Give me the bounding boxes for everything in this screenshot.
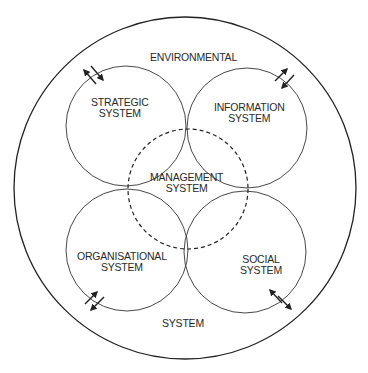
information-system-label: INFORMATION SYSTEM	[214, 102, 285, 124]
organisational-line2: SYSTEM	[77, 262, 167, 273]
management-system-label: MANAGEMENT SYSTEM	[150, 172, 223, 194]
strategic-line2: SYSTEM	[91, 108, 149, 119]
social-line2: SYSTEM	[240, 265, 282, 276]
bidirectional-arrow-icon	[275, 69, 294, 88]
system-label: SYSTEM	[162, 318, 204, 329]
organisational-system-label: ORGANISATIONAL SYSTEM	[77, 251, 167, 273]
information-line2: SYSTEM	[214, 113, 285, 124]
bidirectional-arrow-icon	[84, 66, 103, 84]
environmental-system-diagram: ENVIRONMENTAL SYSTEM STRATEGIC SYSTEM IN…	[0, 0, 368, 373]
social-system-label: SOCIAL SYSTEM	[240, 254, 282, 276]
management-line2: SYSTEM	[150, 183, 223, 194]
environmental-label-text: ENVIRONMENTAL	[150, 52, 237, 63]
bidirectional-arrow-icon	[85, 292, 104, 310]
strategic-system-label: STRATEGIC SYSTEM	[91, 97, 149, 119]
social-system-circle	[184, 191, 306, 313]
information-system-circle	[187, 68, 307, 188]
system-label-text: SYSTEM	[162, 318, 204, 329]
strategic-system-circle	[66, 66, 186, 186]
environmental-label: ENVIRONMENTAL	[150, 52, 237, 63]
